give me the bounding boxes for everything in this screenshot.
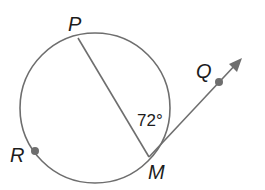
- chord-pm: [78, 38, 149, 157]
- point-q: [215, 78, 223, 86]
- circle-diagram: [0, 0, 265, 190]
- label-r: R: [10, 145, 24, 165]
- label-q: Q: [196, 61, 212, 81]
- label-p: P: [68, 14, 81, 34]
- label-m: M: [148, 162, 165, 182]
- point-r: [31, 147, 39, 155]
- angle-label-72: 72°: [137, 112, 163, 129]
